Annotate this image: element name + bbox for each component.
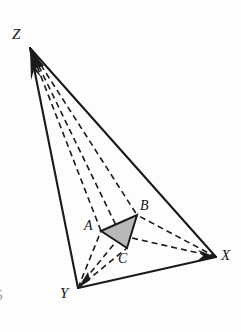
- vertex-label-x: X: [221, 248, 230, 263]
- edge-Z-A: [30, 48, 101, 231]
- figure-container: Z X Y A B C 6: [0, 0, 241, 332]
- geometry-diagram-canvas: [0, 0, 241, 332]
- vertex-label-c: C: [118, 252, 127, 266]
- vertex-label-a: A: [84, 219, 93, 233]
- edge-X-B: [137, 215, 216, 257]
- arrowhead-Z: [30, 48, 44, 80]
- triangle-ABC: [101, 215, 137, 248]
- page-number-fragment: 6: [0, 288, 3, 306]
- vertex-label-z: Z: [12, 27, 20, 42]
- vertex-label-b: B: [140, 199, 149, 213]
- vertex-label-y: Y: [60, 286, 68, 301]
- edge-Z-C: [30, 48, 127, 248]
